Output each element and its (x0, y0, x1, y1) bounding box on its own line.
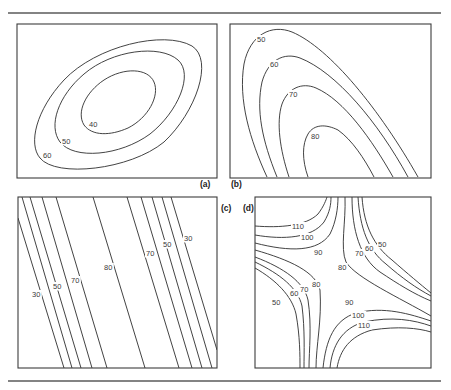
contour-lines (18, 197, 217, 368)
contour-line-110 (337, 328, 431, 368)
contour-line-100 (255, 197, 331, 237)
contour-value-label: 40 (89, 120, 97, 129)
contour-lines (242, 29, 418, 177)
contour-value-label: 60 (365, 244, 373, 253)
panel-label: (c) (221, 203, 232, 213)
contour-value-label: 50 (272, 298, 280, 307)
contour-line-60 (260, 56, 408, 177)
contour-line (141, 197, 192, 368)
panel-d: 11010090807060508070605090100110(d) (243, 197, 431, 368)
contour-value-label: 90 (314, 248, 322, 257)
contour-value-label: 50 (163, 240, 171, 249)
contour-line-100 (330, 319, 431, 368)
panel-label: (d) (243, 203, 254, 213)
panel-frame (255, 197, 431, 368)
contour-value-label: 60 (270, 60, 278, 69)
contour-lines (255, 197, 431, 368)
panel-c: 30507080705030(c) (18, 197, 232, 368)
contour-value-label: 70 (289, 90, 297, 99)
panel-label: (b) (231, 179, 242, 189)
contour-value-label: 80 (104, 263, 112, 272)
panel-label: (a) (200, 179, 211, 189)
contour-line-50 (255, 268, 300, 368)
contour-value-label: 70 (355, 249, 363, 258)
contour-panels: 405060(a)50607080(b)30507080705030(c)110… (17, 24, 431, 368)
contour-value-label: 110 (292, 222, 304, 231)
contour-line-80 (255, 250, 320, 368)
contour-value-label: 50 (378, 240, 386, 249)
contour-line-70 (279, 86, 393, 177)
contour-line (162, 197, 212, 368)
contour-line-70 (255, 257, 310, 368)
panel-b: 50607080(b) (230, 24, 431, 189)
contour-value-label: 30 (32, 290, 40, 299)
contour-line (42, 197, 92, 368)
contour-value-label: 80 (311, 132, 319, 141)
contour-line (22, 197, 72, 368)
contour-line-30 (171, 197, 217, 350)
contour-line-70 (127, 197, 179, 368)
contour-value-label: 100 (301, 233, 314, 242)
contour-lines (35, 40, 202, 169)
contour-value-label: 70 (146, 249, 154, 258)
contour-line-70 (56, 197, 107, 368)
panel-a: 405060(a) (17, 24, 217, 189)
contour-value-label: 50 (53, 282, 61, 291)
contour-line-80 (93, 197, 145, 368)
contour-value-label: 50 (62, 137, 70, 146)
contour-value-label: 80 (312, 280, 320, 289)
contour-value-label: 80 (338, 263, 346, 272)
contour-value-label: 70 (71, 276, 79, 285)
contour-value-label: 70 (300, 285, 308, 294)
contour-value-label: 60 (43, 151, 51, 160)
contour-value-label: 110 (358, 321, 370, 330)
contour-value-label: 90 (345, 298, 353, 307)
contour-value-label: 100 (352, 311, 365, 320)
contour-value-label: 60 (290, 289, 298, 298)
contour-line-50 (152, 197, 202, 368)
contour-line-50 (55, 51, 184, 153)
contour-figure: 405060(a)50607080(b)30507080705030(c)110… (0, 0, 451, 390)
contour-value-label: 30 (184, 234, 192, 243)
contour-line-60 (255, 262, 304, 368)
contour-value-label: 50 (257, 35, 265, 44)
